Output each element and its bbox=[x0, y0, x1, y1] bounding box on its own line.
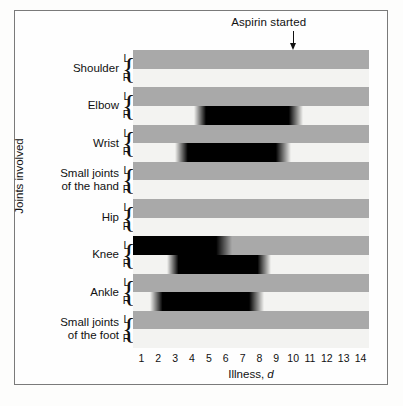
side-letter-l: L bbox=[120, 52, 133, 64]
band-row bbox=[133, 199, 369, 218]
band-row bbox=[133, 162, 369, 181]
joint-group-label: Shoulder bbox=[73, 62, 122, 75]
side-letter-l: L bbox=[120, 313, 133, 325]
active-joint-band bbox=[175, 143, 291, 162]
active-joint-band bbox=[150, 292, 265, 311]
plot-area bbox=[133, 50, 369, 348]
side-letter-r: R bbox=[120, 257, 133, 269]
side-letter-r: R bbox=[120, 71, 133, 83]
x-axis-title-variable: d bbox=[267, 368, 273, 380]
joint-group-label: Ankle bbox=[90, 286, 122, 299]
joint-group-label: Wrist bbox=[93, 137, 122, 150]
band-row bbox=[133, 329, 369, 348]
side-letter-l: L bbox=[120, 239, 133, 251]
joint-group-knee: Knee{ bbox=[36, 236, 133, 273]
joint-group-label: Elbow bbox=[88, 99, 122, 112]
y-axis-side-letters: LRLRLRLRLRLRLRLR bbox=[120, 50, 133, 348]
side-letter-r: R bbox=[120, 108, 133, 120]
joint-group-label: Knee bbox=[92, 248, 122, 261]
band-row bbox=[133, 125, 369, 144]
active-joint-band bbox=[167, 255, 272, 274]
x-axis-title-text: Illness, bbox=[228, 368, 264, 380]
y-axis-group-labels: Shoulder{Elbow{Wrist{Small joints of the… bbox=[36, 50, 133, 348]
joint-group-elbow: Elbow{ bbox=[36, 87, 133, 124]
band-row bbox=[133, 236, 369, 255]
side-letter-l: L bbox=[120, 127, 133, 139]
side-letter-r: R bbox=[120, 220, 133, 232]
joint-group-ankle: Ankle{ bbox=[36, 274, 133, 311]
band-row bbox=[133, 274, 369, 293]
band-row bbox=[133, 180, 369, 199]
band-row bbox=[133, 255, 369, 274]
joint-group-label: Hip bbox=[102, 211, 122, 224]
side-letter-r: R bbox=[120, 294, 133, 306]
joint-group-hip: Hip{ bbox=[36, 199, 133, 236]
x-axis-title: Illness, d bbox=[133, 368, 369, 380]
band-row bbox=[133, 218, 369, 237]
band-row bbox=[133, 50, 369, 69]
band-row bbox=[133, 69, 369, 88]
aspirin-arrow-icon bbox=[289, 31, 298, 50]
joint-group-shoulder: Shoulder{ bbox=[36, 50, 133, 87]
side-letter-l: L bbox=[120, 276, 133, 288]
band-row bbox=[133, 311, 369, 330]
side-letter-l: L bbox=[120, 164, 133, 176]
band-row bbox=[133, 87, 369, 106]
aspirin-started-label: Aspirin started bbox=[231, 16, 403, 28]
side-letter-r: R bbox=[120, 332, 133, 344]
figure-panel: Aspirin started Joints involved Shoulder… bbox=[0, 0, 403, 406]
side-letter-r: R bbox=[120, 145, 133, 157]
side-letter-l: L bbox=[120, 90, 133, 102]
joint-group-label: Small joints of the foot bbox=[60, 316, 122, 342]
joint-group-label: Small joints of the hand bbox=[60, 167, 122, 193]
y-axis-title: Joints involved bbox=[13, 126, 25, 226]
band-row bbox=[133, 106, 369, 125]
side-letter-l: L bbox=[120, 201, 133, 213]
x-tick-label: 14 bbox=[351, 352, 371, 364]
active-joint-band bbox=[133, 236, 232, 255]
band-row bbox=[133, 143, 369, 162]
active-joint-band bbox=[194, 106, 304, 125]
x-axis-ticks: 1234567891011121314 bbox=[133, 352, 369, 366]
band-row bbox=[133, 292, 369, 311]
joint-group-small-joints-of-the-foot: Small joints of the foot{ bbox=[36, 311, 133, 348]
joint-group-wrist: Wrist{ bbox=[36, 125, 133, 162]
side-letter-r: R bbox=[120, 183, 133, 195]
joint-group-small-joints-of-the-hand: Small joints of the hand{ bbox=[36, 162, 133, 199]
